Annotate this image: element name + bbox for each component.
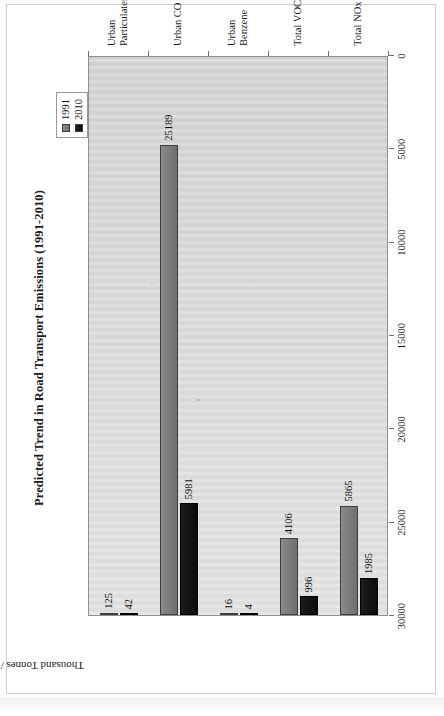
value-tick-label: 15000 <box>396 323 407 349</box>
plot-wrapper: 12525189164106586542598149961985 <box>88 56 388 616</box>
value-tick-label: 25000 <box>396 510 407 536</box>
bar-1991-2 <box>220 613 238 615</box>
category-label-1: Urban CO <box>172 3 184 46</box>
bar-value-label: 996 <box>303 577 314 593</box>
value-tick <box>389 148 394 149</box>
bar-2010-4 <box>360 578 378 615</box>
bar-1991-1 <box>160 145 178 615</box>
legend-swatch-1991 <box>62 124 70 132</box>
plot-area: 12525189164106586542598149961985 <box>88 56 388 616</box>
category-tick <box>208 51 209 56</box>
page-edge-shadow <box>0 698 444 716</box>
category-label-line: Particulates <box>118 0 130 46</box>
category-label-line: Total NOx <box>352 2 364 46</box>
category-label-4: Total NOx <box>352 2 364 46</box>
bar-2010-2 <box>240 613 258 615</box>
value-tick-label: 20000 <box>396 416 407 442</box>
bar-2010-0 <box>120 613 138 615</box>
bar-value-label: 4 <box>243 604 254 609</box>
category-axis: UrbanParticulatesUrban COUrbanBenzeneTot… <box>88 16 388 56</box>
bar-value-label: 1985 <box>363 553 374 574</box>
legend-item: 1991 <box>60 99 71 132</box>
bar-1991-3 <box>280 538 298 615</box>
chart-legend: 1991 2010 <box>56 92 88 138</box>
bar-2010-1 <box>180 503 198 615</box>
value-tick <box>389 335 394 336</box>
legend-label-1991: 1991 <box>60 99 71 120</box>
chart-rotated-container: Predicted Trend in Road Transport Emissi… <box>18 18 418 678</box>
category-tick <box>388 51 389 56</box>
category-label-line: Total VOCs <box>292 0 304 46</box>
value-tick <box>389 522 394 523</box>
category-label-line: Urban <box>106 0 118 46</box>
value-tick <box>389 55 394 56</box>
category-label-line: Benzene <box>238 10 250 46</box>
category-label-line: Urban <box>226 10 238 46</box>
bar-value-label: 25189 <box>163 115 174 141</box>
bar-value-label: 4106 <box>283 513 294 534</box>
value-tick-label: 0 <box>396 53 407 58</box>
value-axis-title: Thousand Tonnes / year <box>0 660 84 672</box>
bar-value-label: 5981 <box>183 478 194 499</box>
value-tick-label: 30000 <box>396 603 407 629</box>
value-tick <box>389 615 394 616</box>
legend-swatch-2010 <box>75 124 83 132</box>
category-tick <box>88 51 89 56</box>
value-tick <box>389 428 394 429</box>
bar-value-label: 16 <box>223 599 234 610</box>
category-tick <box>328 51 329 56</box>
scan-speck <box>197 399 200 401</box>
value-tick-label: 10000 <box>396 230 407 256</box>
bar-1991-4 <box>340 506 358 615</box>
category-label-line: Urban CO <box>172 3 184 46</box>
bar-1991-0 <box>100 613 118 615</box>
scan-speck <box>151 284 153 285</box>
bar-value-label: 125 <box>103 593 114 609</box>
category-tick <box>148 51 149 56</box>
legend-item: 2010 <box>73 99 84 132</box>
value-tick-label: 5000 <box>396 139 407 160</box>
category-label-0: UrbanParticulates <box>106 0 130 46</box>
category-tick <box>268 51 269 56</box>
category-label-2: UrbanBenzene <box>226 10 250 46</box>
legend-label-2010: 2010 <box>73 99 84 120</box>
bar-value-label: 42 <box>123 599 134 610</box>
chart-title: Predicted Trend in Road Transport Emissi… <box>32 18 47 678</box>
category-label-3: Total VOCs <box>292 0 304 46</box>
bar-chart: Predicted Trend in Road Transport Emissi… <box>18 18 418 678</box>
scanned-page: Predicted Trend in Road Transport Emissi… <box>0 0 444 716</box>
value-tick <box>389 242 394 243</box>
bar-2010-3 <box>300 596 318 615</box>
bar-value-label: 5865 <box>343 481 354 502</box>
